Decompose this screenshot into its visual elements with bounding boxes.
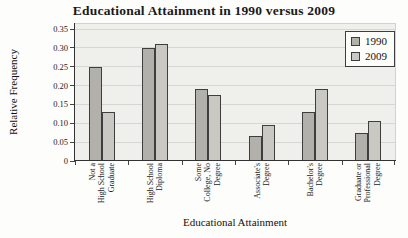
bar-2009: [315, 89, 328, 161]
x-tick: [288, 161, 289, 165]
x-tick-label: Graduate orProfessionalDegree: [353, 163, 383, 213]
bar-chart: Educational Attainment in 1990 versus 20…: [0, 0, 408, 238]
bar-2009: [102, 112, 115, 161]
y-tick-label: 0.30: [30, 43, 68, 53]
x-tick-label-line: Graduate or: [354, 163, 363, 213]
x-tick-label: Not aHigh SchoolGraduate: [87, 163, 117, 213]
y-tick-label: 0.25: [30, 62, 68, 72]
x-tick: [128, 161, 129, 165]
x-tick-label-line: Bachelor's: [306, 163, 315, 213]
y-tick-label: 0.35: [30, 24, 68, 34]
gridline: [75, 85, 395, 86]
legend-label: 1990: [365, 36, 387, 47]
bar-1990: [195, 89, 208, 161]
x-axis-line: [74, 160, 396, 161]
legend-label: 2009: [365, 51, 387, 62]
x-tick-label-line: Professional: [364, 163, 373, 213]
y-tick-label: 0.10: [30, 118, 68, 128]
x-tick-label-line: Some: [194, 163, 203, 213]
x-tick-label-line: Degree: [262, 163, 271, 213]
x-tick-label-line: Not a: [88, 163, 97, 213]
legend-swatch: [351, 37, 360, 46]
bar-1990: [249, 136, 262, 161]
bar-1990: [355, 133, 368, 161]
bar-2009: [368, 121, 381, 161]
x-axis-title: Educational Attainment: [75, 216, 395, 228]
x-tick: [342, 161, 343, 165]
x-tick-label: High SchoolDiploma: [140, 163, 170, 213]
bar-2009: [208, 95, 221, 161]
gridline: [75, 123, 395, 124]
bar-1990: [302, 112, 315, 161]
gridline: [75, 142, 395, 143]
gridline: [75, 29, 395, 30]
y-tick-label: 0.05: [30, 137, 68, 147]
x-tick: [75, 161, 76, 165]
x-tick-label-line: Degree: [315, 163, 324, 213]
y-tick-label: 0.15: [30, 99, 68, 109]
x-tick-label-line: Degree: [373, 163, 382, 213]
legend-item-1990: 1990: [351, 34, 387, 49]
bar-1990: [89, 67, 102, 161]
legend-swatch: [351, 52, 360, 61]
x-tick-label-line: Degree: [213, 163, 222, 213]
y-axis-title: Relative Frequency: [7, 22, 21, 162]
x-tick: [182, 161, 183, 165]
x-tick: [394, 161, 395, 165]
x-tick-label-line: Diploma: [155, 163, 164, 213]
gridline: [75, 104, 395, 105]
x-tick-label: SomeCollege, NoDegree: [193, 163, 223, 213]
bar-2009: [262, 125, 275, 161]
legend: 19902009: [345, 31, 395, 67]
x-tick-label-line: Graduate: [106, 163, 115, 213]
bar-1990: [142, 48, 155, 161]
y-tick-label: 0: [30, 156, 68, 166]
x-tick-label-line: High School: [97, 163, 106, 213]
x-tick-label-line: Associate's: [252, 163, 261, 213]
y-axis-line: [74, 23, 75, 161]
legend-item-2009: 2009: [351, 49, 387, 64]
x-tick: [235, 161, 236, 165]
chart-title: Educational Attainment in 1990 versus 20…: [0, 3, 408, 19]
x-tick-label: Associate'sDegree: [247, 163, 277, 213]
x-tick-label-line: High School: [146, 163, 155, 213]
x-tick-label: Bachelor'sDegree: [300, 163, 330, 213]
bar-2009: [155, 44, 168, 161]
y-tick-label: 0.20: [30, 81, 68, 91]
x-tick-label-line: College, No: [204, 163, 213, 213]
